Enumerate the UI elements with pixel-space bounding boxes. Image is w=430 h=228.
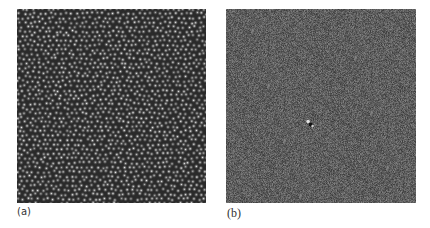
panel-b-image <box>226 9 416 203</box>
panel-a-label: (a) <box>17 206 31 217</box>
panel-b-label: (b) <box>227 206 241 221</box>
panel-a-image <box>17 9 206 203</box>
